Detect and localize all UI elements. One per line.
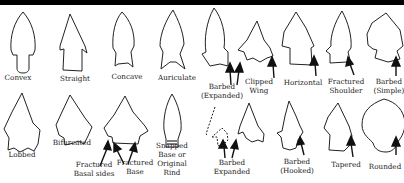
label-line: (Expanded) bbox=[201, 91, 243, 100]
label-tapered: Tapered bbox=[331, 160, 361, 169]
label-lobbed: Lobbed bbox=[8, 150, 35, 159]
label-straight: Straight bbox=[60, 74, 90, 83]
label-line: Barbed bbox=[214, 158, 250, 167]
point-snapped bbox=[164, 94, 181, 147]
label-line: Barbed bbox=[201, 82, 243, 91]
label-line: Original bbox=[156, 159, 188, 168]
point-barbed-expanded bbox=[202, 8, 228, 66]
label-fractured-basal-sides: Fractured Basal sides bbox=[74, 160, 115, 178]
label-horizontal: Horizontal bbox=[284, 78, 323, 87]
label-auriculate: Auriculate bbox=[158, 73, 196, 82]
label-concave: Concave bbox=[111, 72, 142, 81]
label-line: Basal sides bbox=[74, 169, 115, 178]
label-line: Fractured bbox=[117, 158, 154, 167]
point-convex bbox=[11, 12, 35, 73]
label-line: Wing bbox=[245, 86, 273, 95]
label-line: Fractured bbox=[328, 77, 365, 86]
arrows bbox=[100, 56, 400, 166]
point-straight bbox=[60, 14, 87, 71]
label-bifurcated: Bifurcated bbox=[53, 138, 91, 147]
point-concave bbox=[113, 12, 134, 67]
point-barbed-expanded-3 bbox=[238, 103, 264, 142]
label-convex: Convex bbox=[5, 73, 32, 82]
label-fractured-base: Fractured Base bbox=[117, 158, 154, 176]
label-barbed-expanded-2: Barbed Expanded bbox=[214, 158, 250, 176]
label-barbed-expanded: Barbed (Expanded) bbox=[201, 82, 243, 100]
label-barbed-simple: Barbed (Simple) bbox=[374, 77, 404, 95]
point-horizontal bbox=[282, 12, 314, 65]
label-line: Fractured bbox=[74, 160, 115, 169]
label-line: (Simple) bbox=[374, 86, 404, 95]
point-barbed-expanded-2 bbox=[206, 107, 228, 146]
label-fractured-shoulder: Fractured Shoulder bbox=[328, 77, 365, 95]
label-line: Clipped bbox=[245, 77, 273, 86]
label-line: Snapped bbox=[156, 141, 188, 150]
point-fractured-base bbox=[104, 96, 148, 144]
label-line: Expanded bbox=[214, 167, 250, 176]
label-line: Rind bbox=[156, 168, 188, 177]
point-auriculate bbox=[160, 10, 185, 69]
label-line: Base or bbox=[156, 150, 188, 159]
label-clipped-wing: Clipped Wing bbox=[245, 77, 273, 95]
label-snapped-base: Snapped Base or Original Rind bbox=[156, 141, 188, 177]
point-clipped-wing bbox=[238, 21, 273, 62]
point-lobbed bbox=[4, 93, 40, 152]
label-rounded: Rounded bbox=[369, 162, 401, 171]
label-line: Base bbox=[117, 167, 154, 176]
label-line: Barbed bbox=[280, 157, 314, 166]
arrowhead-types-diagram: Convex Straight Concave Auriculate Lobbe… bbox=[0, 0, 404, 183]
label-line: (Hooked) bbox=[280, 166, 314, 175]
point-barbed-simple bbox=[367, 13, 403, 62]
label-line: Barbed bbox=[374, 77, 404, 86]
label-line: Shoulder bbox=[328, 86, 365, 95]
label-barbed-hooked: Barbed (Hooked) bbox=[280, 157, 314, 175]
point-fractured-shoulder bbox=[326, 11, 351, 63]
